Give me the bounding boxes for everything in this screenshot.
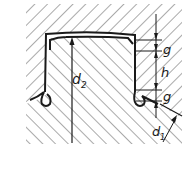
housing-hatch	[26, 4, 182, 144]
label-d1-sub: 1	[160, 133, 165, 142]
label-d2-sub: 2	[81, 80, 87, 90]
label-g-bottom: g	[163, 89, 171, 104]
label-g-top: g	[163, 42, 171, 57]
seal-groove-diagram: g h g d 2 d 1	[0, 0, 194, 171]
label-d2-main: d	[72, 71, 81, 87]
label-h: h	[161, 65, 169, 80]
